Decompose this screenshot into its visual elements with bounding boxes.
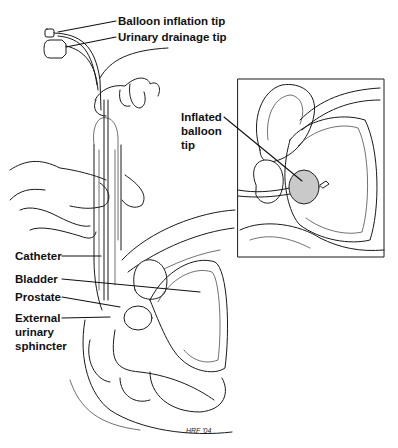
label-line: urinary xyxy=(15,325,67,339)
label-prostate: Prostate xyxy=(15,290,61,304)
label-line: sphincter xyxy=(15,339,67,353)
penis-shaft xyxy=(93,100,121,310)
label-line: balloon xyxy=(181,124,222,138)
label-bladder: Bladder xyxy=(15,272,58,286)
label-line: External xyxy=(15,311,67,325)
inset-anatomy xyxy=(238,84,384,250)
label-external-urinary-sphincter: External urinary sphincter xyxy=(15,311,67,353)
label-inflated-balloon-tip: Inflated balloon tip xyxy=(181,110,222,152)
artist-signature: HRF '04 xyxy=(186,427,211,434)
label-line: Inflated xyxy=(181,110,222,124)
anatomy-illustration xyxy=(0,0,398,448)
label-line: tip xyxy=(181,138,222,152)
label-catheter: Catheter xyxy=(15,249,62,263)
label-balloon-inflation-tip: Balloon inflation tip xyxy=(118,14,225,28)
pelvis-body xyxy=(70,210,235,434)
upper-hand xyxy=(94,48,168,116)
label-urinary-drainage-tip: Urinary drainage tip xyxy=(118,30,227,44)
left-hand xyxy=(10,161,144,238)
